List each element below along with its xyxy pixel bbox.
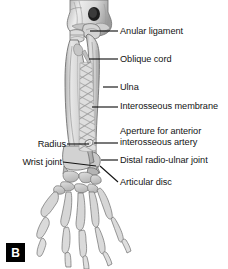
label-aperture-anterior-interosseous-artery: Aperture for anterior interosseous arter… — [120, 126, 228, 147]
label-anular-ligament: Anular ligament — [120, 26, 183, 37]
anatomy-figure-panel-b: Anular ligament Oblique cord Ulna Intero… — [0, 0, 228, 269]
label-wrist-joint: Wrist joint — [0, 157, 62, 168]
label-oblique-cord: Oblique cord — [120, 54, 172, 65]
label-ulna: Ulna — [120, 82, 139, 93]
label-articular-disc: Articular disc — [120, 177, 172, 188]
label-distal-radio-ulnar-joint: Distal radio-ulnar joint — [120, 155, 208, 166]
label-interosseous-membrane: Interosseous membrane — [120, 101, 228, 112]
label-radius: Radius — [0, 139, 66, 150]
panel-letter-badge: B — [6, 243, 25, 262]
